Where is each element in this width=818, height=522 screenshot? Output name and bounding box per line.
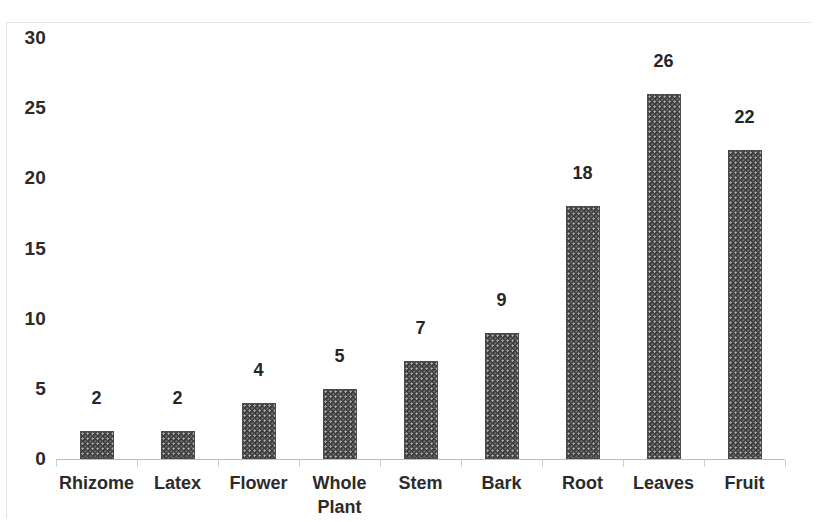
x-axis-line <box>56 459 785 460</box>
x-axis-tick <box>623 460 624 467</box>
x-axis-tick <box>542 460 543 467</box>
x-axis-tick <box>218 460 219 467</box>
bar <box>80 431 114 459</box>
y-axis-tick-label: 15 <box>24 238 46 260</box>
bar <box>566 206 600 459</box>
bar <box>728 150 762 459</box>
bar-value-label: 2 <box>172 388 182 409</box>
y-axis: 051015202530 <box>0 0 56 522</box>
bar-value-label: 2 <box>91 388 101 409</box>
bar-chart: 051015202530 224579182622 RhizomeLatexFl… <box>0 0 818 522</box>
x-axis-tick <box>461 460 462 467</box>
bar <box>161 431 195 459</box>
bar <box>404 361 438 459</box>
bar-value-label: 9 <box>496 290 506 311</box>
x-axis-tick <box>704 460 705 467</box>
bar-value-label: 7 <box>415 318 425 339</box>
y-axis-tick-label: 25 <box>24 97 46 119</box>
y-axis-tick-label: 30 <box>24 27 46 49</box>
x-axis-tick <box>785 460 786 467</box>
bar <box>323 389 357 459</box>
x-axis-tick <box>56 460 57 467</box>
y-axis-tick-label: 5 <box>35 378 46 400</box>
x-axis-tick <box>380 460 381 467</box>
y-axis-tick-label: 20 <box>24 167 46 189</box>
bar <box>647 94 681 459</box>
bar-value-label: 4 <box>253 360 263 381</box>
x-axis-tick <box>137 460 138 467</box>
plot-area: 224579182622 <box>56 22 785 459</box>
y-axis-tick-label: 0 <box>35 448 46 470</box>
y-axis-tick-label: 10 <box>24 308 46 330</box>
bar-value-label: 26 <box>653 51 673 72</box>
bar <box>242 403 276 459</box>
bar-value-label: 5 <box>334 346 344 367</box>
bar <box>485 333 519 459</box>
x-axis-tick <box>299 460 300 467</box>
bar-value-label: 22 <box>734 107 754 128</box>
x-axis-category-label: Fruit <box>690 472 800 496</box>
bar-value-label: 18 <box>572 163 592 184</box>
